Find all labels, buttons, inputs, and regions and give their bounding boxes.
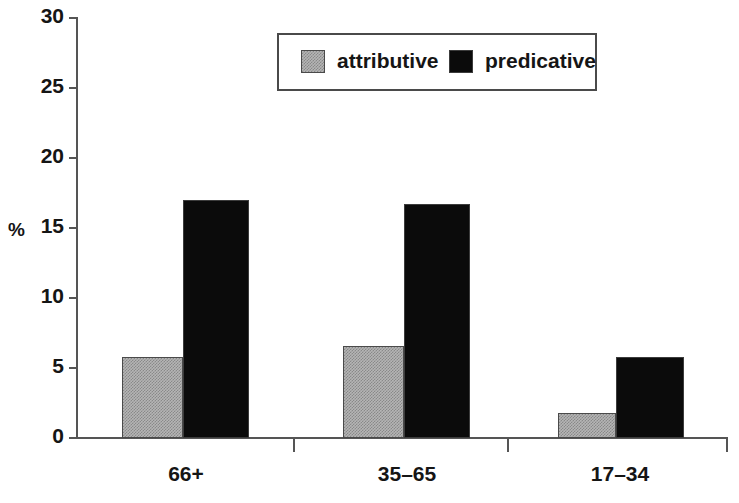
legend-label-predicative: predicative — [485, 49, 596, 73]
bar-attributive — [122, 357, 183, 438]
x-axis-tick-label: 66+ — [116, 462, 256, 486]
y-axis-tick-label: 0 — [52, 424, 64, 448]
legend-entry-attributive: attributive — [301, 49, 439, 73]
y-axis-tick-label: 10 — [41, 284, 64, 308]
bar-predicative — [183, 200, 249, 438]
y-axis-tick-label: 25 — [41, 74, 64, 98]
x-axis-tick — [293, 439, 295, 452]
y-axis-title: % — [8, 219, 25, 241]
x-axis-end-tick — [726, 439, 728, 452]
legend: attributive predicative — [277, 33, 597, 91]
y-axis-tick — [69, 17, 78, 19]
y-axis-tick-label: 20 — [41, 144, 64, 168]
x-axis-tick — [507, 439, 509, 452]
legend-swatch-attributive — [301, 50, 325, 73]
legend-swatch-predicative — [449, 50, 473, 73]
y-axis-tick — [69, 87, 78, 89]
legend-label-attributive: attributive — [337, 49, 439, 73]
y-axis-tick — [69, 297, 78, 299]
bar-predicative — [404, 204, 470, 438]
y-axis-tick-label: 15 — [41, 214, 64, 238]
y-axis-tick — [69, 437, 78, 439]
bar-predicative — [616, 357, 684, 438]
bar-attributive — [558, 413, 616, 438]
y-axis-tick-label: 30 — [41, 4, 64, 28]
x-axis-tick-label: 35–65 — [337, 462, 477, 486]
y-axis-tick-label: 5 — [52, 354, 64, 378]
bar-attributive — [343, 346, 404, 438]
y-axis-tick — [69, 227, 78, 229]
bar-chart: % 051015202530 66+35–6517–34 attributive… — [0, 0, 739, 503]
x-axis-tick-label: 17–34 — [550, 462, 690, 486]
y-axis-tick — [69, 367, 78, 369]
legend-entry-predicative: predicative — [449, 49, 596, 73]
y-axis-tick — [69, 157, 78, 159]
